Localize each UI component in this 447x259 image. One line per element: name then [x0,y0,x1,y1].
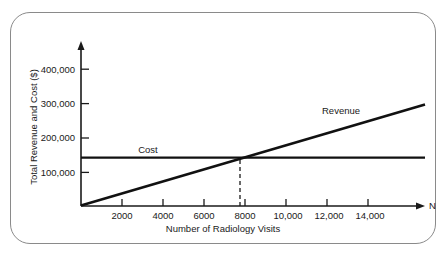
cost-series-label: Cost [138,144,158,155]
revenue-line [81,105,425,206]
x-tick-label-2000: 2000 [111,210,132,221]
x-axis-title: Number of Radiology Visits [166,223,281,234]
revenue-series-label: Revenue [322,105,360,116]
y-tick-label-100000: 100,000 [41,167,75,178]
figure-container: 400,000 300,000 200,000 100,000 2000 400… [0,0,447,259]
x-tick-label-14000: 14,000 [355,210,384,221]
x-tick-label-8000: 8000 [234,210,255,221]
x-tick-label-6000: 6000 [193,210,214,221]
x-tick-label-4000: 4000 [152,210,173,221]
y-tick-label-200000: 200,000 [41,132,75,143]
x-tick-label-10000: 10,000 [273,210,302,221]
x-axis [81,203,425,210]
break-even-chart: 400,000 300,000 200,000 100,000 2000 400… [0,0,447,259]
y-tick-label-400000: 400,000 [41,64,75,75]
x-axis-ticks [122,199,368,206]
x-tick-label-12000: 12,000 [314,210,343,221]
x-axis-marker-n: N [429,200,436,211]
y-axis [78,41,85,206]
y-axis-title: Total Revenue and Cost ($) [28,69,39,185]
y-tick-label-300000: 300,000 [41,98,75,109]
